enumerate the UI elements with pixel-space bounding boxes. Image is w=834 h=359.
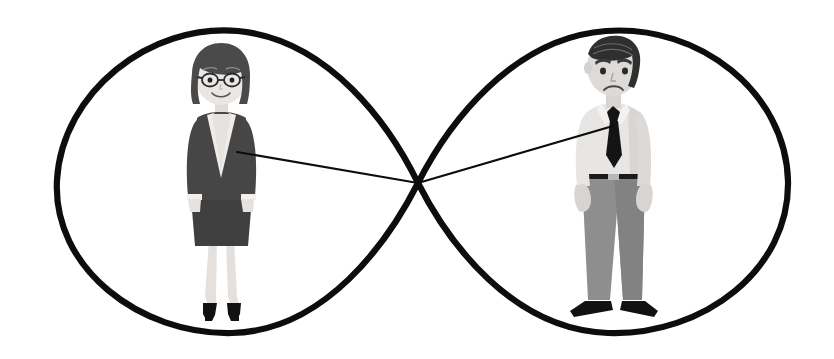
woman-left-eye: [208, 77, 213, 82]
man-left-ear: [584, 62, 592, 74]
woman-right-hand: [241, 199, 254, 212]
man-left-eye: [600, 68, 606, 75]
woman-right-eye: [230, 77, 235, 82]
illustration-canvas: Infinity loop with businesswoman and bus…: [0, 0, 834, 359]
woman-left-heel: [205, 315, 209, 321]
infinity-illustration-svg: Infinity loop with businesswoman and bus…: [0, 0, 834, 359]
woman-left-hand: [188, 199, 201, 212]
man-right-eye: [622, 68, 628, 75]
woman-right-heel: [235, 315, 239, 321]
